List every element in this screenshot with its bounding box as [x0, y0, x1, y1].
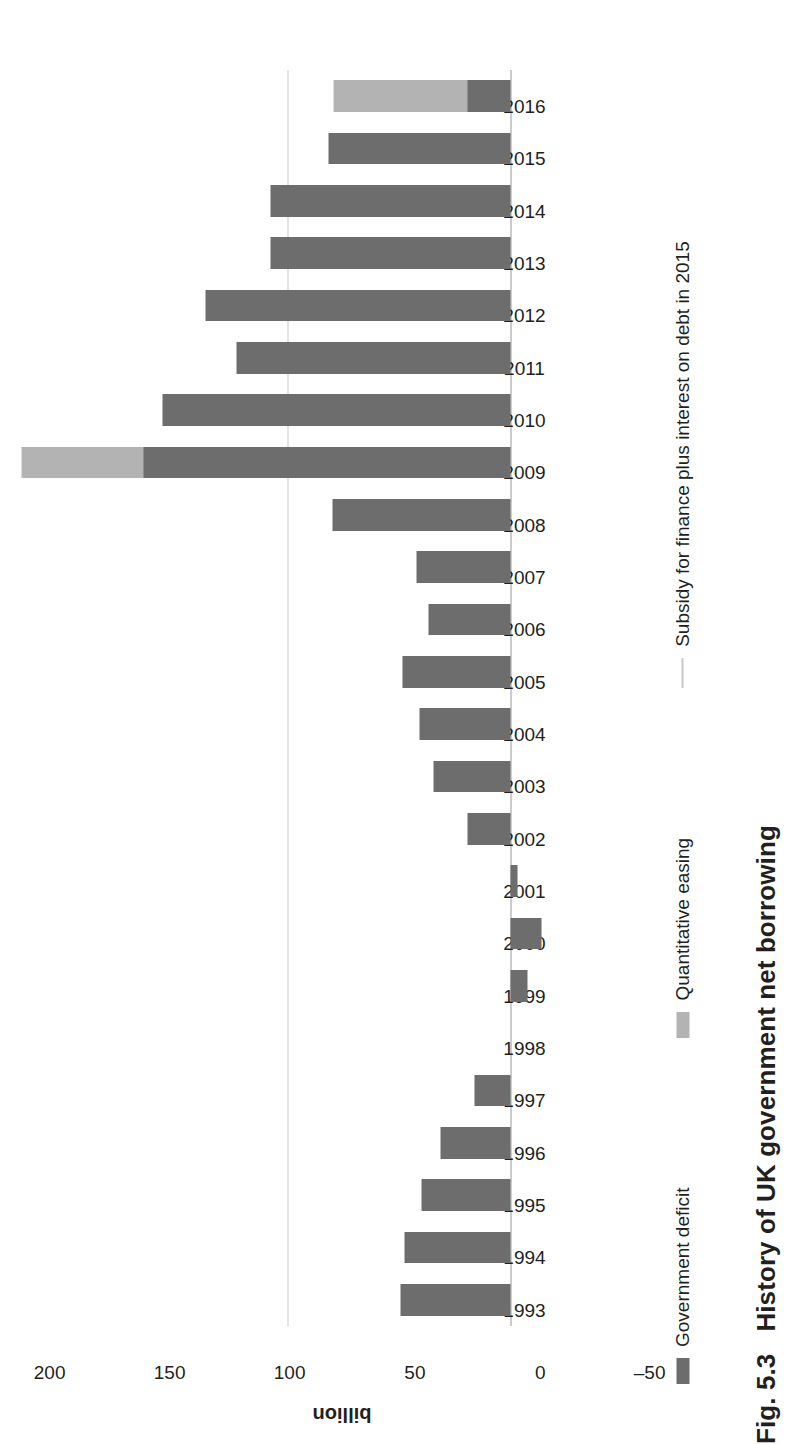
- figure-caption: Fig. 5.3History of UK government net bor…: [750, 0, 781, 1444]
- legend-label: Quantitative easing: [671, 838, 693, 1001]
- bar-government-deficit: [332, 499, 510, 530]
- bar-government-deficit: [402, 656, 510, 687]
- bar-group: [30, 750, 630, 802]
- bar-government-deficit: [510, 970, 527, 1001]
- bar-group: [30, 698, 630, 750]
- bar-group: [30, 855, 630, 907]
- bar-government-deficit: [404, 1232, 510, 1263]
- value-tick-100: 100: [235, 1362, 305, 1384]
- bar-group: [30, 1221, 630, 1273]
- bar-government-deficit: [270, 185, 510, 216]
- value-tick--50: –50: [595, 1362, 665, 1384]
- bar-group: [30, 541, 630, 593]
- value-tick-50: 50: [355, 1362, 425, 1384]
- bar-group: [30, 122, 630, 174]
- bar-group: [30, 1117, 630, 1169]
- bar-group: [30, 332, 630, 384]
- bar-group: [30, 384, 630, 436]
- figure-number: Fig. 5.3: [750, 1354, 780, 1444]
- bar-government-deficit: [440, 1127, 510, 1158]
- bar-group: [30, 907, 630, 959]
- bar-group: [30, 1012, 630, 1064]
- bar-government-deficit: [328, 133, 510, 164]
- legend-item-2[interactable]: Quantitative easing: [671, 838, 693, 1038]
- bar-government-deficit: [416, 552, 510, 583]
- legend-swatch-icon: [676, 1358, 689, 1384]
- legend-label: Subsidy for finance plus interest on deb…: [671, 241, 693, 647]
- bar-group: [30, 960, 630, 1012]
- bar-government-deficit: [400, 1284, 510, 1315]
- value-axis-label: billion: [312, 1403, 371, 1426]
- bar-group: [30, 803, 630, 855]
- bar-group: [30, 279, 630, 331]
- bar-government-deficit: [270, 238, 510, 269]
- bar-group: [30, 489, 630, 541]
- chart-plot-area: 1993199419951996199719981999200020012002…: [30, 70, 630, 1326]
- bar-government-deficit: [236, 342, 510, 373]
- legend-item-3[interactable]: Subsidy for finance plus interest on deb…: [671, 241, 693, 688]
- legend-item-1[interactable]: Government deficit: [671, 1188, 693, 1384]
- bar-government-deficit: [474, 1075, 510, 1106]
- bar-government-deficit: [467, 813, 510, 844]
- bar-government-deficit: [428, 604, 510, 635]
- bar-group: [30, 1064, 630, 1116]
- bars-container: 1993199419951996199719981999200020012002…: [30, 70, 630, 1326]
- bar-group: [30, 1274, 630, 1326]
- bar-government-deficit: [419, 709, 510, 740]
- bar-government-deficit: [205, 290, 510, 321]
- bar-government-deficit: [421, 1180, 510, 1211]
- bar-government-deficit: [510, 918, 541, 949]
- bar-government-deficit: [433, 761, 510, 792]
- bar-group: [30, 70, 630, 122]
- value-tick-0: 0: [475, 1362, 545, 1384]
- value-tick-200: 200: [0, 1362, 65, 1384]
- legend-line-icon: [681, 658, 683, 688]
- bar-government-deficit: [143, 447, 510, 478]
- bar-group: [30, 646, 630, 698]
- bar-government-deficit: [162, 395, 510, 426]
- bar-group: [30, 436, 630, 488]
- value-tick-150: 150: [115, 1362, 185, 1384]
- bar-group: [30, 175, 630, 227]
- chart-legend: Government deficitQuantitative easingSub…: [667, 44, 697, 1384]
- legend-swatch-icon: [676, 1012, 689, 1038]
- bar-government-deficit: [467, 81, 510, 112]
- figure-page: 1993199419951996199719981999200020012002…: [0, 0, 789, 1444]
- rotated-figure-canvas: 1993199419951996199719981999200020012002…: [0, 0, 789, 1444]
- bar-government-deficit: [510, 866, 517, 897]
- bar-group: [30, 593, 630, 645]
- figure-caption-text: History of UK government net borrowing: [750, 825, 780, 1331]
- legend-label: Government deficit: [671, 1188, 693, 1347]
- bar-group: [30, 1169, 630, 1221]
- bar-group: [30, 227, 630, 279]
